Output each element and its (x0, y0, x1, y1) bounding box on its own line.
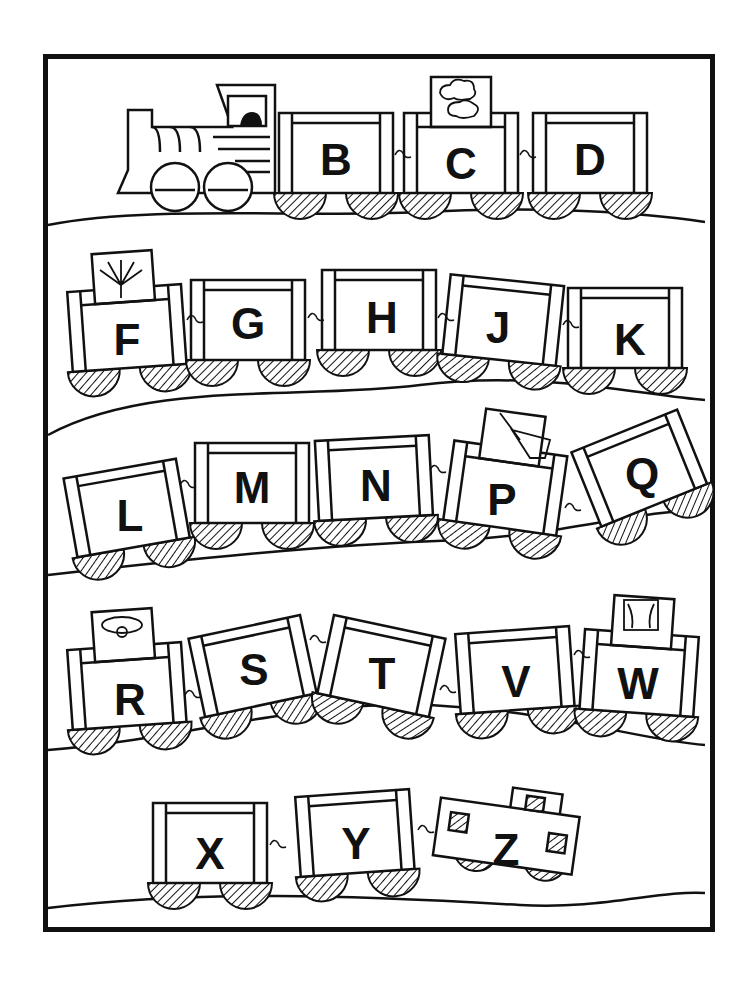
car-letter-j: J (468, 306, 528, 350)
car-letter-g: G (218, 302, 278, 346)
car-letter-q: Q (612, 452, 672, 496)
car-letter-m: M (222, 466, 282, 510)
car-letter-z: Z (476, 828, 536, 872)
car-letter-l: L (100, 494, 160, 538)
car-letter-v: V (486, 660, 546, 704)
car-letter-y: Y (326, 822, 386, 866)
car-letter-b: B (306, 138, 366, 182)
car-letter-n: N (346, 464, 406, 508)
engine (118, 85, 275, 211)
car-letter-x: X (180, 832, 240, 876)
car-letter-d: D (560, 138, 620, 182)
car-letter-h: H (352, 296, 412, 340)
car-letter-f: F (97, 318, 157, 362)
car-letter-c: C (431, 142, 491, 186)
car-letter-p: P (472, 478, 532, 522)
car-letter-t: T (352, 652, 412, 696)
car-letter-s: S (224, 648, 284, 692)
car-letter-k: K (600, 318, 660, 362)
car-letter-w: W (608, 662, 668, 706)
car-letter-r: R (100, 678, 160, 722)
